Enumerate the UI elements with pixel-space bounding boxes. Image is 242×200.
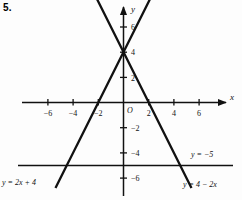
- y-tick-label--4: −4: [131, 149, 140, 158]
- figure-container: 5.: [0, 0, 242, 200]
- x-tick-label--4: −4: [69, 109, 78, 118]
- x-tick-label-2: 2: [147, 109, 151, 118]
- equation-label-line-1: y = 2x + 4: [2, 178, 36, 187]
- coordinate-plane-svg: x y O −6 −4 −2 2 4 6 6 4 2 −2 −4 −6: [0, 0, 242, 200]
- plotted-lines-group: [18, 0, 233, 188]
- equation-label-line-3: y = −5: [191, 150, 213, 159]
- y-tick-label--2: −2: [131, 124, 140, 133]
- x-axis-label: x: [229, 92, 234, 102]
- axes-group: [22, 7, 226, 196]
- x-tick-label-4: 4: [172, 109, 176, 118]
- y-axis-label: y: [130, 4, 135, 14]
- x-tick-label-6: 6: [197, 109, 201, 118]
- equation-label-line-2: y = 4 − 2x: [183, 180, 217, 189]
- origin-label: O: [127, 106, 133, 115]
- y-tick-label--6: −6: [131, 174, 140, 183]
- x-tick-label--6: −6: [44, 109, 53, 118]
- y-tick-label-4: 4: [131, 48, 135, 57]
